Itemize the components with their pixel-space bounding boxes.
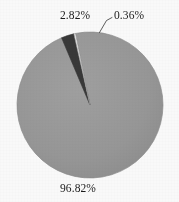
- pie-chart-canvas: [0, 0, 179, 202]
- leader-line-sliver-icon: [100, 18, 113, 33]
- pie-label-main-slice: 96.82%: [60, 182, 96, 195]
- pie-label-dark-slice: 2.82%: [60, 9, 90, 22]
- pie-chart-figure: 2.82% 0.36% 96.82%: [0, 0, 179, 202]
- pie-label-sliver-slice: 0.36%: [114, 9, 144, 22]
